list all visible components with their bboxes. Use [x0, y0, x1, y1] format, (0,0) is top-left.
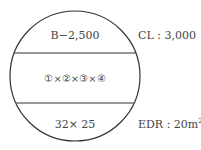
- cl-label: CL : 3,000: [138, 29, 196, 42]
- edr-label: EDR : 20m2: [138, 117, 201, 131]
- circle-diagram: B−2,500 ①×②×③×④ 32× 25 CL : 3,000 EDR : …: [0, 0, 201, 150]
- bottom-section-text: 32× 25: [55, 118, 96, 131]
- middle-section-text: ①×②×③×④: [44, 73, 105, 84]
- top-section-text: B−2,500: [51, 29, 100, 42]
